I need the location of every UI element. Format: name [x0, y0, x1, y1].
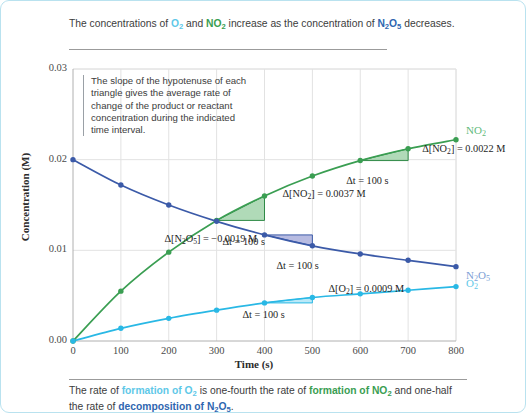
- decomposition-n2o5-inline: decomposition of N2O5: [118, 401, 231, 412]
- point-n2o5: [70, 157, 75, 162]
- figure-container: The concentrations of O2 and NO2 increas…: [0, 0, 526, 413]
- formation-no2-inline: formation of NO2: [309, 385, 392, 396]
- y-tick-label: 0.01: [29, 243, 67, 254]
- divider-bottom: [69, 379, 467, 380]
- x-tick-label: 200: [149, 345, 189, 356]
- point-o2: [405, 288, 410, 293]
- formation-o2-inline: formation of O2: [122, 385, 197, 396]
- x-tick-label: 800: [436, 345, 476, 356]
- x-tick-label: 400: [245, 345, 285, 356]
- x-tick-label: 500: [292, 345, 332, 356]
- point-o2: [262, 300, 267, 305]
- point-no2: [166, 249, 171, 254]
- o2-triangle-dt-label: Δt = 100 s: [242, 309, 284, 320]
- point-o2: [118, 326, 123, 331]
- point-n2o5: [166, 202, 171, 207]
- o2-triangle-delta-label: Δ[O2] = 0.0009 M: [328, 283, 404, 296]
- y-tick-label: 0.00: [29, 334, 67, 345]
- series-label-no2: NO2: [466, 124, 486, 138]
- point-o2: [70, 338, 75, 343]
- no2-triangle-2-delta-label: Δ[NO2] = 0.0022 M: [422, 143, 505, 156]
- y-tick-label: 0.03: [29, 62, 67, 73]
- point-n2o5: [453, 264, 458, 269]
- series-label-n2o5: N2O5: [466, 269, 490, 283]
- point-o2: [310, 295, 315, 300]
- caption-bottom: The rate of formation of O2 is one-fourt…: [69, 384, 467, 413]
- point-no2: [405, 146, 410, 151]
- x-tick-label: 700: [388, 345, 428, 356]
- point-n2o5: [118, 182, 123, 187]
- no2-triangle-1-delta-label: Δ[NO2] = 0.0037 M: [283, 188, 366, 201]
- x-tick-label: 300: [197, 345, 237, 356]
- point-no2: [262, 193, 267, 198]
- point-o2: [214, 307, 219, 312]
- x-tick-label: 100: [101, 345, 141, 356]
- point-no2: [358, 158, 363, 163]
- point-o2: [166, 316, 171, 321]
- point-n2o5: [214, 219, 219, 224]
- x-tick-label: 600: [340, 345, 380, 356]
- point-n2o5: [405, 258, 410, 263]
- point-no2: [118, 288, 123, 293]
- point-o2: [453, 284, 458, 289]
- slope-explanation-note: The slope of the hypotenuse of each tria…: [83, 75, 255, 136]
- point-no2: [310, 173, 315, 178]
- point-no2: [453, 137, 458, 142]
- point-n2o5: [358, 251, 363, 256]
- y-tick-label: 0.02: [29, 153, 67, 164]
- n2o5-triangle-dt-label: Δt = 100 s: [276, 260, 318, 271]
- x-axis-title: Time (s): [194, 358, 314, 370]
- no2-triangle-2-dt-label: Δt = 100 s: [346, 175, 388, 186]
- n2o5-triangle-delta-label: Δ[N2O5] = −0.0019 M: [164, 233, 257, 246]
- point-n2o5: [310, 243, 315, 248]
- x-tick-label: 0: [53, 345, 93, 356]
